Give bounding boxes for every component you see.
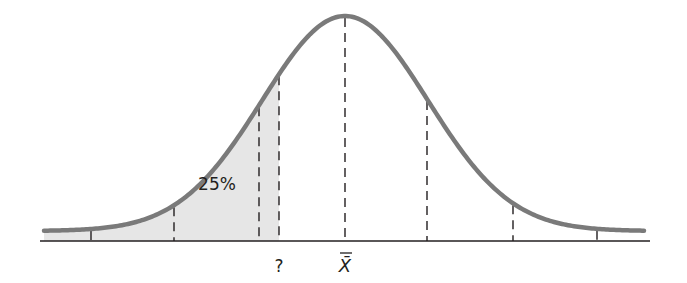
shaded-25-percent-region: [44, 74, 279, 241]
normal-curve: [44, 16, 644, 231]
shaded-percent-label: 25%: [198, 174, 236, 194]
normal-distribution-figure: 25% ? X̄: [0, 0, 687, 283]
unknown-value-label: ?: [274, 256, 283, 276]
mean-label: X̄: [338, 255, 352, 276]
